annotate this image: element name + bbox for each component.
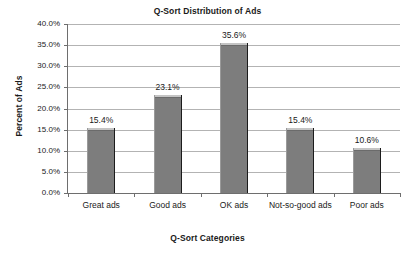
x-axis-line (67, 193, 400, 194)
bar-data-label: 15.4% (71, 116, 131, 125)
bar-data-label: 10.6% (337, 136, 397, 145)
plot-area (68, 24, 400, 193)
x-axis-tick-mark (334, 193, 335, 197)
bar[interactable] (154, 95, 182, 193)
gridline (68, 24, 400, 25)
x-axis-category-label: OK ads (201, 200, 267, 211)
y-axis-tick-label: 15.0% (0, 126, 60, 134)
y-axis-tick-label: 10.0% (0, 147, 60, 155)
x-axis-category-label: Great ads (68, 200, 134, 211)
chart-container: Q-Sort Distribution of Ads Percent of Ad… (0, 0, 415, 254)
bar[interactable] (220, 43, 248, 193)
y-axis-tick-label: 35.0% (0, 41, 60, 49)
y-axis-tick-label: 5.0% (0, 168, 60, 176)
x-axis-category-label: Good ads (134, 200, 200, 211)
x-axis-tick-mark (267, 193, 268, 197)
y-axis-tick-label: 20.0% (0, 105, 60, 113)
x-axis-category-label: Not-so-good ads (267, 200, 333, 211)
bar[interactable] (87, 128, 115, 193)
x-axis-tick-mark (68, 193, 69, 197)
y-axis-tick-label: 40.0% (0, 20, 60, 28)
bar-data-label: 15.4% (270, 116, 330, 125)
bar-data-label: 23.1% (138, 83, 198, 92)
x-axis-tick-mark (400, 193, 401, 197)
bar-data-label: 35.6% (204, 31, 264, 40)
y-axis-tick-label: 25.0% (0, 83, 60, 91)
x-axis-tick-mark (201, 193, 202, 197)
y-axis-tick-label: 30.0% (0, 62, 60, 70)
x-axis-tick-mark (134, 193, 135, 197)
x-axis-title: Q-Sort Categories (0, 233, 415, 243)
x-axis-category-label: Poor ads (334, 200, 400, 211)
y-axis-tick-label: 0.0% (0, 189, 60, 197)
bar[interactable] (353, 148, 381, 193)
bar[interactable] (286, 128, 314, 193)
chart-title: Q-Sort Distribution of Ads (0, 6, 415, 16)
